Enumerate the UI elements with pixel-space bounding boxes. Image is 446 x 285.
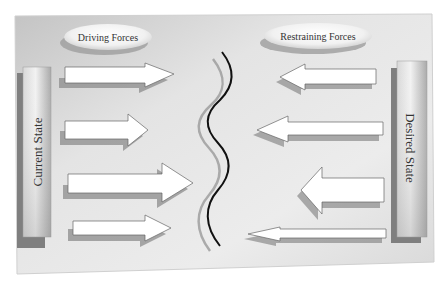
desired-state-label: Desired State xyxy=(403,113,418,183)
current-state-label: Current State xyxy=(30,117,45,186)
desired-state-bar: Desired State xyxy=(391,61,427,243)
current-state-bar: Current State xyxy=(17,67,51,248)
restraining-forces-label: Restraining Forces xyxy=(280,31,355,42)
force-field-diagram: Driving Forces Restraining Forces Curren… xyxy=(0,0,446,285)
driving-forces-label: Driving Forces xyxy=(78,32,138,43)
restraining-forces-header: Restraining Forces xyxy=(260,23,372,54)
